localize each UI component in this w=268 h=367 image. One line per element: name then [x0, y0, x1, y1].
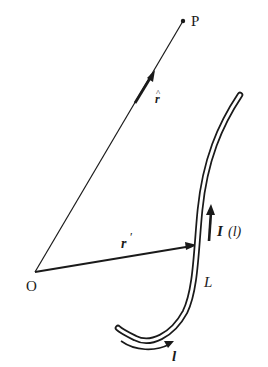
label-r-prime: r	[121, 236, 127, 251]
label-origin-o: O	[26, 278, 37, 294]
point-p-dot	[181, 19, 185, 23]
label-curve-L: L	[203, 274, 212, 290]
label-r-prime-mark: ′	[130, 230, 133, 244]
current-carrying-wire-L	[118, 95, 240, 341]
label-current-arg: (l)	[228, 224, 242, 240]
unit-vector-r-hat-arrow	[135, 70, 155, 103]
label-current-I: I	[216, 223, 224, 239]
label-r-hat-caret: ^	[156, 88, 161, 98]
position-vector-r-prime-arrow	[35, 242, 197, 272]
current-direction-arrow	[206, 204, 215, 241]
label-path-l: l	[172, 348, 177, 364]
label-point-p: P	[191, 13, 199, 29]
line-o-to-p	[35, 21, 183, 272]
diagram-canvas: P O r ^ r ′ I (l) L l	[0, 0, 268, 367]
